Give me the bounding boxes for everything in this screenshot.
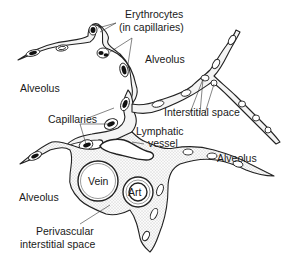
label-vein: Vein xyxy=(88,175,109,187)
label-alveolus-left: Alveolus xyxy=(20,82,60,94)
label-interstitial-space: Interstitial space xyxy=(164,106,240,118)
label-perivascular-1: Perivascular xyxy=(36,225,94,237)
septum-upper-left xyxy=(18,24,137,108)
label-capillaries: Capillaries xyxy=(48,113,97,125)
label-alveolus-bottom-left: Alveolus xyxy=(19,191,59,203)
label-lymphatic-2: vessel xyxy=(148,137,178,149)
label-lymphatic-1: Lymphatic xyxy=(136,125,183,137)
label-alveolus-top: Alveolus xyxy=(145,53,185,65)
label-erythrocytes-2: (in capillaries) xyxy=(119,21,184,33)
label-art: Art xyxy=(128,186,142,198)
label-alveolus-right: Alveolus xyxy=(217,152,257,164)
alveolar-diagram: Erythrocytes (in capillaries) Alveolus A… xyxy=(0,0,289,264)
label-erythrocytes-1: Erythrocytes xyxy=(125,8,183,20)
label-perivascular-2: interstitial space xyxy=(20,238,95,250)
